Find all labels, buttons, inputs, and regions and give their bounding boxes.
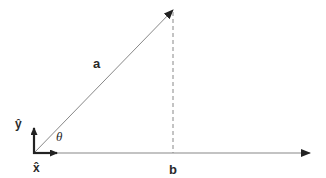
label-y-hat: ŷ [15, 117, 22, 131]
vector-diagram: a b θ x̂ ŷ [0, 0, 326, 178]
label-x-hat: x̂ [33, 161, 40, 175]
vector-a-arrow [34, 10, 173, 153]
label-a: a [93, 56, 101, 71]
label-b: b [169, 162, 177, 177]
label-theta: θ [56, 129, 63, 144]
